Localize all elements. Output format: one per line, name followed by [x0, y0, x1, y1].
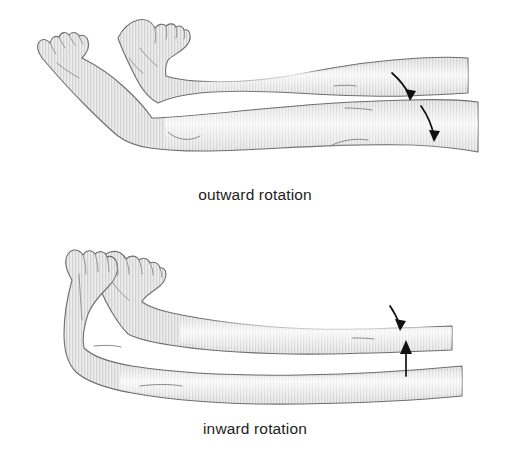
outward-rotation-drawing — [0, 0, 510, 180]
illustration-figure: outward rotation — [0, 0, 510, 453]
caption-outward-rotation: outward rotation — [0, 186, 510, 204]
panel-outward-rotation: outward rotation — [0, 0, 510, 225]
far-leg-outward — [118, 19, 468, 103]
inward-rotation-drawing — [0, 228, 510, 408]
far-leg-inward — [96, 251, 452, 354]
far-leg-highlight — [200, 60, 468, 93]
caption-inward-rotation: inward rotation — [0, 420, 510, 438]
far-leg-highlight-inward — [180, 316, 452, 351]
panel-inward-rotation: inward rotation — [0, 228, 510, 453]
arrow-upper-inward — [390, 306, 406, 331]
